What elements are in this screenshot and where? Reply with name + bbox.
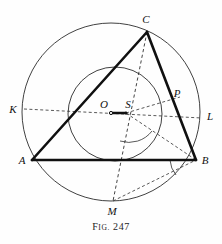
side-BC [147,32,196,160]
label-A: A [18,154,26,166]
line-CM [113,32,147,201]
segment-SB [126,113,196,160]
label-M: M [106,205,117,217]
figure-page: A B C K L M O P S FIG. 247 [0,0,222,244]
label-B: B [202,154,209,166]
point-O-marker [109,111,112,114]
label-K: K [8,103,17,115]
label-L: L [206,110,213,122]
label-S: S [125,98,131,110]
caption-prefix-rest: IG. [98,223,110,232]
point-S-marker [125,112,128,115]
caption-number: 247 [113,221,130,232]
caption-prefix: FIG. [92,221,110,232]
geometry-diagram: A B C K L M O P S [0,0,222,244]
side-CA [32,32,147,160]
label-P: P [173,87,181,99]
label-O: O [100,98,108,110]
segment-MB [113,160,196,201]
label-C: C [142,13,150,25]
angle-arc-at-B [170,160,176,175]
figure-caption: FIG. 247 [0,221,222,232]
